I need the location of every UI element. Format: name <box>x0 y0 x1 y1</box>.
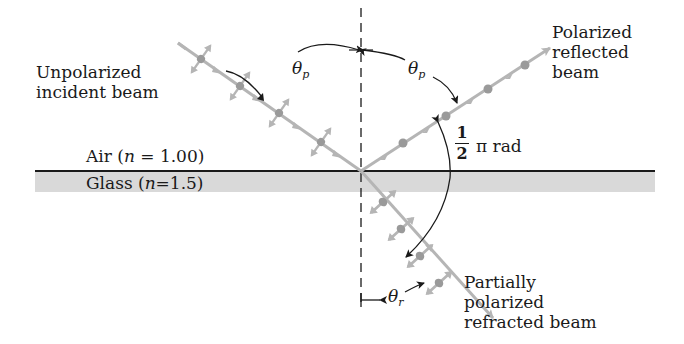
theta-r-right-arrow <box>405 283 424 292</box>
glass-label: Glass (n=1.5) <box>86 173 204 193</box>
theta-p-right-label: θp <box>408 58 425 81</box>
theta-p-right-arc-lower <box>433 77 457 103</box>
refracted-beam-label: Partially polarized refracted beam <box>464 272 597 332</box>
air-label: Air (n = 1.00) <box>86 146 204 166</box>
incident-beam-label: Unpolarized incident beam <box>36 62 159 102</box>
theta-r-label: θr <box>388 286 404 309</box>
theta-p-right-arc <box>363 50 405 60</box>
incident-beam <box>178 42 361 171</box>
theta-p-left-arc <box>298 44 359 52</box>
theta-p-left-label: θp <box>292 58 309 81</box>
right-angle-label: π rad <box>476 136 522 156</box>
reflected-beam-label: Polarized reflected beam <box>552 22 632 82</box>
right-angle-fraction: 1 2 <box>455 124 469 163</box>
brewster-angle-diagram: Unpolarized incident beam Polarized refl… <box>0 0 684 344</box>
